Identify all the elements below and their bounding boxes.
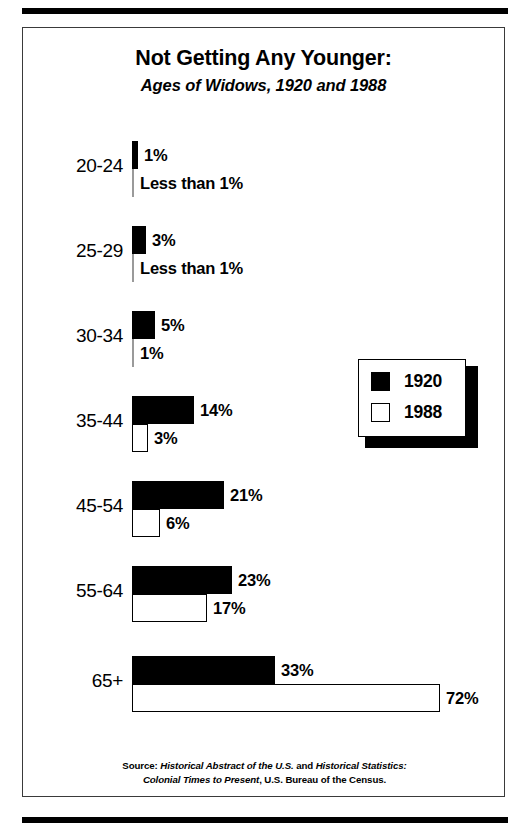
source-line-1: Source: Historical Abstract of the U.S. … [23, 759, 506, 773]
bar-group-20-24: 1% Less than 1% [132, 141, 243, 197]
source-prefix: Source: [122, 760, 160, 771]
bar-value-1920-65-plus: 33% [281, 661, 313, 680]
chart-row-25-29: 25-29 3% Less than 1% [23, 226, 506, 284]
bar-value-1920-20-24: 1% [144, 146, 167, 165]
bar-group-35-44: 14% 3% [132, 396, 232, 452]
bar-1920-55-64 [132, 566, 232, 594]
legend-box: 1920 1988 [358, 359, 466, 437]
bar-line-1988-65-plus: 72% [132, 684, 478, 712]
bar-group-30-34: 5% 1% [132, 311, 184, 367]
bar-line-1920-35-44: 14% [132, 396, 232, 424]
row-label-65-plus: 65+ [23, 670, 123, 692]
bar-1920-35-44 [132, 396, 194, 424]
bar-1988-20-24 [132, 169, 134, 197]
source-title-2: Historical Statistics: [316, 760, 407, 771]
legend-label-1920: 1920 [404, 371, 442, 392]
bar-group-25-29: 3% Less than 1% [132, 226, 243, 282]
plot-area: 20-24 1% Less than 1% 25-29 3% [23, 28, 506, 798]
bar-value-1988-25-29: Less than 1% [140, 259, 243, 278]
chart-row-65-plus: 65+ 33% 72% [23, 656, 506, 714]
chart-row-45-54: 45-54 21% 6% [23, 481, 506, 539]
bar-1988-25-29 [132, 254, 134, 282]
bar-value-1988-55-64: 17% [213, 599, 245, 618]
bar-line-1920-25-29: 3% [132, 226, 243, 254]
bar-value-1988-20-24: Less than 1% [140, 174, 243, 193]
row-label-35-44: 35-44 [23, 410, 123, 432]
source-title-3: Colonial Times to Present [143, 774, 259, 785]
bar-1920-30-34 [132, 311, 155, 339]
source-conjunction: and [294, 760, 316, 771]
bar-1988-65-plus [132, 684, 440, 712]
bar-1920-65-plus [132, 656, 275, 684]
bar-value-1988-45-54: 6% [166, 514, 189, 533]
legend-item-1988: 1988 [371, 402, 465, 423]
legend-swatch-1920-icon [371, 372, 390, 391]
bar-1920-20-24 [132, 141, 138, 169]
row-label-25-29: 25-29 [23, 240, 123, 262]
bar-1920-45-54 [132, 481, 224, 509]
bar-1988-35-44 [132, 424, 148, 452]
bar-line-1920-30-34: 5% [132, 311, 184, 339]
bar-value-1920-35-44: 14% [200, 401, 232, 420]
bar-value-1988-30-34: 1% [140, 344, 163, 363]
bar-line-1988-25-29: Less than 1% [132, 254, 243, 282]
bar-value-1988-65-plus: 72% [446, 689, 478, 708]
bar-line-1988-20-24: Less than 1% [132, 169, 243, 197]
bar-line-1988-35-44: 3% [132, 424, 232, 452]
bar-1988-55-64 [132, 594, 207, 622]
source-publisher: , U.S. Bureau of the Census. [259, 774, 386, 785]
chart-row-20-24: 20-24 1% Less than 1% [23, 141, 506, 199]
source-line-2: Colonial Times to Present, U.S. Bureau o… [23, 773, 506, 787]
bar-line-1920-65-plus: 33% [132, 656, 478, 684]
source-note: Source: Historical Abstract of the U.S. … [23, 759, 506, 787]
bar-value-1920-45-54: 21% [230, 486, 262, 505]
row-label-45-54: 45-54 [23, 495, 123, 517]
bar-group-65-plus: 33% 72% [132, 656, 478, 712]
bar-line-1920-20-24: 1% [132, 141, 243, 169]
bar-group-45-54: 21% 6% [132, 481, 262, 537]
row-label-20-24: 20-24 [23, 155, 123, 177]
legend-item-1920: 1920 [371, 371, 465, 392]
bar-line-1988-55-64: 17% [132, 594, 270, 622]
bar-line-1920-55-64: 23% [132, 566, 270, 594]
chart-frame: Not Getting Any Younger: Ages of Widows,… [22, 27, 505, 797]
row-label-55-64: 55-64 [23, 580, 123, 602]
bar-value-1920-55-64: 23% [238, 571, 270, 590]
legend-swatch-1988-icon [371, 403, 390, 422]
bar-1988-45-54 [132, 509, 160, 537]
bar-group-55-64: 23% 17% [132, 566, 270, 622]
top-divider-rule [22, 8, 508, 14]
bar-value-1988-35-44: 3% [154, 429, 177, 448]
bar-value-1920-25-29: 3% [152, 231, 175, 250]
bar-1988-30-34 [132, 339, 134, 367]
source-title-1: Historical Abstract of the U.S. [160, 760, 293, 771]
bar-line-1988-30-34: 1% [132, 339, 184, 367]
bar-line-1988-45-54: 6% [132, 509, 262, 537]
bar-1920-25-29 [132, 226, 146, 254]
legend-label-1988: 1988 [404, 402, 442, 423]
chart-row-55-64: 55-64 23% 17% [23, 566, 506, 624]
bar-value-1920-30-34: 5% [161, 316, 184, 335]
bar-line-1920-45-54: 21% [132, 481, 262, 509]
bottom-divider-rule [22, 817, 508, 823]
chart-legend: 1920 1988 [358, 359, 478, 448]
row-label-30-34: 30-34 [23, 325, 123, 347]
